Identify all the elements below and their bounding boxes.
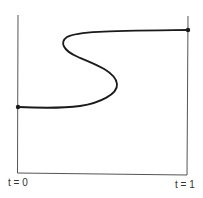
end-point: [186, 28, 190, 32]
bottom-axis: [18, 173, 188, 175]
s-curve-path: [18, 30, 188, 108]
label-t1: t = 1: [175, 179, 195, 190]
label-t0: t = 0: [8, 177, 28, 188]
left-axis: [18, 15, 19, 173]
diagram-canvas: [0, 0, 203, 198]
start-point: [16, 105, 20, 109]
right-axis: [187, 16, 188, 175]
